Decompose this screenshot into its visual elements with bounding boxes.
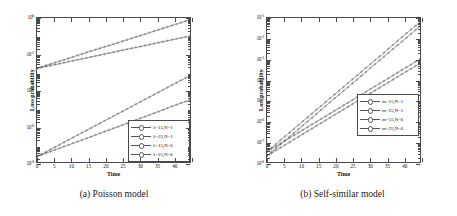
y-tick-minor [188,155,191,156]
y-tick-minor [418,50,421,51]
x-tick [71,158,72,162]
y-tick-minor [418,62,421,63]
legend-item[interactable]: m=25,N=6 [360,124,415,133]
y-tick-minor [37,57,40,58]
x-tick-label: 10 [69,164,74,169]
y-tick-minor [188,111,191,112]
x-tick [353,158,354,162]
y-tick-minor [188,129,191,130]
legend-item[interactable]: m=15,N=6 [360,115,415,124]
y-tick-minor [418,146,421,147]
y-tick-minor [267,131,270,132]
y-tick-minor [267,148,270,149]
y-tick-minor [267,68,270,69]
x-tick-label: 35 [385,164,390,169]
y-tick-minor [37,46,40,47]
y-tick-minor [267,133,270,134]
y-tick-minor [267,85,270,86]
y-tick-minor [418,95,421,96]
y-tick-minor [188,150,191,151]
x-axis-title-a: Time [107,171,120,177]
x-tick [37,158,38,162]
y-tick-minor [267,47,270,48]
x-tick-label: 5 [283,164,286,169]
y-tick-minor [267,91,270,92]
x-tick [89,158,90,162]
y-tick-minor [37,38,40,39]
y-tick-minor [188,133,191,134]
y-tick-minor [418,61,421,62]
y-tick-minor [188,94,191,95]
y-tick-minor [37,60,40,61]
legend-item[interactable]: λ=15,N=1 [131,123,186,132]
y-tick-minor [418,40,421,41]
y-tick-minor [418,103,421,104]
y-tick-minor [188,78,191,79]
y-tick-minor [37,25,40,26]
curves-self-similar [267,18,420,162]
y-tick-minor [267,127,270,128]
y-tick-minor [37,39,40,40]
y-tick-minor [37,49,40,50]
legend-label: λ=25,N=1 [153,134,173,139]
legend-item[interactable]: λ=25,N=1 [131,132,186,141]
y-tick-minor [37,86,40,87]
y-tick-minor [418,154,421,155]
y-tick-minor [418,45,421,46]
y-tick-minor [188,117,191,118]
y-tick-minor [267,145,270,146]
y-tick-minor [37,133,40,134]
y-tick-minor [188,96,191,97]
y-tick-minor [188,101,191,102]
legend-item[interactable]: m=15,N=1 [360,97,415,106]
y-tick-minor [267,129,270,130]
y-tick-minor [37,98,40,99]
y-tick-minor [418,21,421,22]
y-tick-minor [37,64,40,65]
y-tick-minor [267,116,270,117]
x-tick-label: 35 [155,164,160,169]
legend-item[interactable]: λ=15,N=6 [131,141,186,150]
y-tick-minor [188,31,191,32]
y-tick-minor [418,131,421,132]
y-tick-minor [188,38,191,39]
y-tick-minor [37,119,40,120]
y-tick-minor [418,43,421,44]
x-tick [405,18,406,22]
y-tick-minor [188,110,191,111]
y-tick-minor [188,92,191,93]
y-tick-minor [37,92,40,93]
y-tick-minor [267,82,270,83]
y-tick-minor [37,78,40,79]
y-tick-minor [418,74,421,75]
x-tick [319,18,320,22]
y-tick-minor [267,106,270,107]
y-tick-minor [188,42,191,43]
y-tick-minor [418,19,421,20]
y-tick-minor [267,29,270,30]
y-tick-minor [37,129,40,130]
y-tick-minor [267,95,270,96]
series-2 [36,19,191,69]
y-tick-minor [267,41,270,42]
y-tick-minor [418,71,421,72]
caption-poisson: (a) Poisson model [0,189,228,199]
legend-sample-diamond-icon [360,116,380,123]
y-tick-minor [188,135,191,136]
x-tick-label: 20 [333,164,338,169]
y-tick-minor [37,137,40,138]
y-tick-minor [37,59,40,60]
y-tick-minor [37,113,40,114]
x-tick [267,158,268,162]
y-tick-minor [267,40,270,41]
y-tick-minor [267,50,270,51]
legend-item[interactable]: m=25,N=1 [360,106,415,115]
y-tick-minor [188,64,191,65]
y-tick-minor [267,105,270,106]
y-tick-minor [418,149,421,150]
legend-sample-triangle-icon [131,151,151,158]
y-tick-minor [188,75,191,76]
legend-sample-circle-icon [360,98,380,105]
y-tick-minor [418,108,421,109]
y-tick-minor [37,140,40,141]
